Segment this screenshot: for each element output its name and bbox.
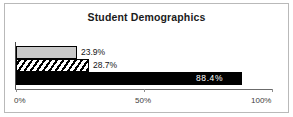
x-axis-tick-100 <box>272 89 273 92</box>
x-axis-tick-label-50: 50% <box>135 96 151 105</box>
bar-value-label: 23.9% <box>81 46 105 59</box>
chart-card: Student Demographics 0% 50% 100% 23.9% 2… <box>0 0 293 117</box>
chart-title: Student Demographics <box>0 11 293 23</box>
bar-value-label: 28.7% <box>93 59 117 72</box>
x-axis-tick-0 <box>16 89 17 92</box>
plot-area: 0% 50% 100% 23.9% 28.7% 88.4% <box>16 44 272 89</box>
x-axis-tick-label-0: 0% <box>14 96 26 105</box>
bar-segment[interactable] <box>16 46 77 59</box>
bar-value-label: 88.4% <box>196 72 223 85</box>
x-axis-tick-50 <box>144 89 145 92</box>
bar-segment[interactable] <box>16 59 89 72</box>
x-axis-tick-label-100: 100% <box>251 96 271 105</box>
